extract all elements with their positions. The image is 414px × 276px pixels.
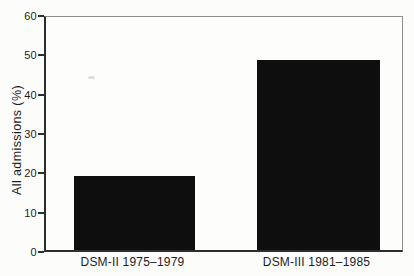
y-tick-mark [38, 94, 44, 96]
y-tick-mark [38, 133, 44, 135]
bar-2 [257, 60, 380, 250]
y-tick-label: 40 [0, 88, 37, 102]
y-tick-label: 50 [0, 48, 37, 62]
scan-artifact [88, 76, 95, 79]
y-tick-label: 30 [0, 127, 37, 141]
x-category-label: DSM-III 1981–1985 [263, 255, 370, 269]
y-tick-label: 0 [0, 245, 37, 259]
y-tick-mark [38, 212, 44, 214]
y-tick-label: 60 [0, 9, 37, 23]
bar-chart-figure: All admissions (%) 0102030405060DSM-II 1… [0, 0, 414, 276]
x-category-label: DSM-II 1975–1979 [81, 255, 185, 269]
plot-area [44, 16, 403, 252]
y-tick-mark [38, 251, 44, 253]
y-tick-label: 20 [0, 166, 37, 180]
y-tick-label: 10 [0, 206, 37, 220]
y-tick-mark [38, 54, 44, 56]
y-tick-mark [38, 15, 44, 17]
bar-1 [74, 176, 195, 250]
y-tick-mark [38, 172, 44, 174]
